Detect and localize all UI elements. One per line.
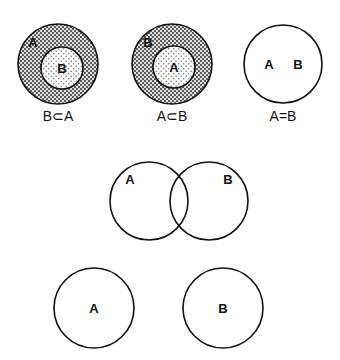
label-overlap-a: A xyxy=(125,172,135,187)
label-overlap-b: B xyxy=(223,172,232,187)
caption-a-equals-b: A=B xyxy=(243,108,323,124)
diagram-a-equals-b: A B xyxy=(244,25,322,103)
venn-diagram-figure: A B B A A B A B A B B xyxy=(0,0,340,360)
circle-a-overlap xyxy=(110,162,188,240)
venn-diagram-canvas: A B B A A B A B A B xyxy=(0,0,340,360)
diagram-a-subset-b: B A xyxy=(132,24,212,104)
label-outer-b: B xyxy=(143,35,152,50)
caption-a-subset-b: A⊂B xyxy=(132,108,212,124)
caption-b-subset-a: B⊂A xyxy=(18,108,98,124)
label-left-a: A xyxy=(264,57,274,72)
label-disjoint-a: A xyxy=(89,301,99,316)
diagram-b-subset-a: A B xyxy=(18,24,98,104)
circle-ab xyxy=(244,25,322,103)
label-inner-b: B xyxy=(57,61,66,76)
label-outer-a: A xyxy=(28,35,38,50)
label-disjoint-b: B xyxy=(218,301,227,316)
label-inner-a: A xyxy=(169,60,179,75)
diagram-a-intersect-b: A B xyxy=(110,162,248,240)
label-right-b: B xyxy=(293,57,302,72)
diagram-a-disjoint-b: A B xyxy=(54,268,263,348)
